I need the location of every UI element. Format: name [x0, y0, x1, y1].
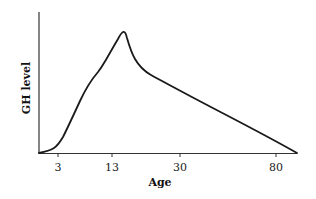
x-tick-label-80: 80: [269, 161, 283, 174]
gh-level-chart: 3 13 30 80 Age GH level: [0, 0, 316, 199]
x-tick-label-3: 3: [55, 161, 62, 174]
x-axis-label: Age: [147, 176, 171, 189]
x-tick-label-13: 13: [105, 161, 119, 174]
x-tick-label-30: 30: [173, 161, 187, 174]
y-axis-label: GH level: [20, 62, 33, 114]
gh-level-curve: [39, 32, 297, 153]
